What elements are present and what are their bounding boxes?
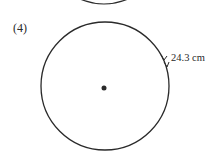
figure-canvas — [0, 0, 218, 159]
center-point — [102, 86, 107, 91]
figure-number-label: (4) — [13, 21, 27, 36]
previous-figure-arc — [80, 0, 128, 4]
arc-length-label: 24.3 cm — [171, 52, 205, 63]
